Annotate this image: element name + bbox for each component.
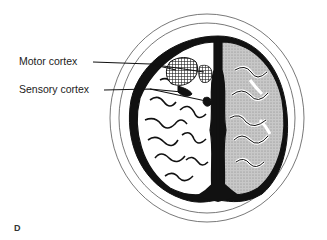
motor-cortex-label: Motor cortex [19,55,77,67]
axial-brain-illustration [0,0,327,240]
panel-letter: D [14,223,21,233]
motor-cortex-region-medial [199,65,212,82]
sensory-cortex-region-medial [203,97,211,106]
sensory-cortex-label: Sensory cortex [19,83,89,95]
